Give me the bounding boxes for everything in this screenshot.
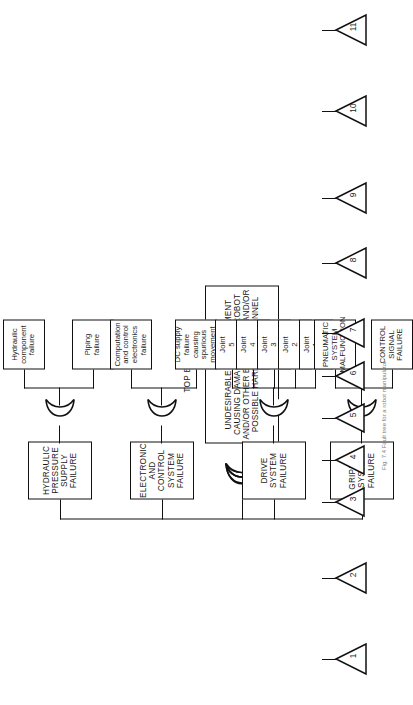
wire-drive-to-gate [273, 425, 274, 443]
basic-event-box-1: CONTROL SIGNAL FAILURE [371, 319, 413, 369]
wire-electronic-leaf-9 [131, 368, 132, 388]
wire-bus-to-hydraulic [60, 497, 61, 519]
basic-event-box-8: DC supply failure causing spurious movem… [175, 319, 217, 369]
leaf1-line3: FAILURE [396, 325, 405, 363]
electronic-line-4: FAILURE [176, 443, 185, 498]
wire-gripper-leaf-1 [392, 368, 393, 388]
transfer-number-3: 3 [348, 491, 358, 507]
wire-drive-leaf-5 [274, 368, 275, 388]
wire-electronic-to-gate [161, 425, 162, 443]
leaf9-line4: failure [140, 322, 149, 366]
transfer-number-7: 7 [348, 322, 358, 338]
hydraulic-line-2: PRESSURE [51, 445, 60, 494]
wire-electronic-leaf-8 [196, 368, 197, 388]
transfer-number-2: 2 [348, 567, 358, 583]
basic-event-box-10: Piping failure [72, 319, 114, 369]
wire-drive-leaf-4 [295, 368, 296, 388]
wire-hydraulic-leaf-10 [93, 368, 94, 388]
leaf11-line3: failure [28, 325, 37, 364]
gripper-line-3: FAILURE [367, 451, 376, 489]
hydraulic-line-4: FAILURE [69, 445, 78, 494]
transfer-number-1: 1 [348, 648, 358, 664]
wire-drive-leaf-3 [315, 368, 316, 388]
transfer-number-5: 5 [348, 407, 358, 423]
drive-line-2: SYSTEM [269, 452, 278, 488]
leaf10-line2: failure [93, 333, 102, 355]
electronic-line-1: ELECTRONIC [139, 443, 148, 498]
subbus-hydraulic [24, 387, 94, 388]
hydraulic-line-1: HYDRAULIC [42, 445, 51, 494]
electronic-line-3: SYSTEM [167, 443, 176, 498]
electronic-line-2: AND CONTROL [148, 443, 166, 498]
wire-hydraulic-gate-to-bus [59, 387, 60, 405]
wire-drive-leaf-6 [253, 368, 254, 388]
wire-bus-to-electronic [162, 497, 163, 519]
basic-event-box-9: Computation and control electronics fail… [110, 319, 152, 369]
wire-hydraulic-to-gate [59, 425, 60, 443]
hydraulic-line-3: SUPPLY [60, 445, 69, 494]
wire-bus-to-drive [274, 497, 275, 519]
intermediate-box-drive: DRIVE SYSTEM FAILURE [242, 441, 306, 499]
drive-line-1: DRIVE [260, 452, 269, 488]
transfer-number-10: 10 [348, 100, 358, 116]
wire-hydraulic-leaf-11 [24, 368, 25, 388]
intermediate-box-electronic: ELECTRONIC AND CONTROL SYSTEM FAILURE [130, 441, 194, 499]
drive-line-3: FAILURE [279, 452, 288, 488]
wire-drive-gate-to-bus [273, 387, 274, 405]
intermediate-box-hydraulic: HYDRAULIC PRESSURE SUPPLY FAILURE [28, 441, 92, 499]
figure-caption: Fig. 7.4 Fault tree for a robot manipula… [381, 361, 387, 470]
wire-electronic-gate-to-bus [161, 387, 162, 405]
basic-event-box-11: Hydraulic component failure [3, 319, 45, 369]
transfer-number-4: 4 [348, 449, 358, 465]
transfer-number-11: 11 [348, 19, 358, 35]
leaf8-line2: failure causing [183, 322, 200, 366]
transfer-number-9: 9 [348, 187, 358, 203]
wire-drive-leaf-7 [232, 368, 233, 388]
transfer-number-6: 6 [348, 365, 358, 381]
transfer-number-8: 8 [348, 252, 358, 268]
bus-main [60, 518, 363, 519]
subbus-electronic [131, 387, 197, 388]
